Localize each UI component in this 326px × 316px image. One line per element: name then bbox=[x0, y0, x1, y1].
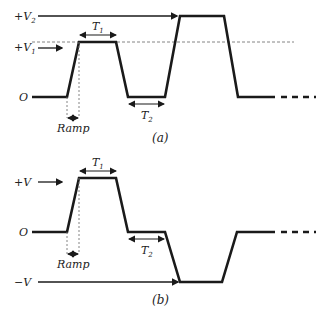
label-v1: +V1 bbox=[14, 41, 36, 56]
label-t1-b: T1 bbox=[92, 156, 104, 171]
label-neg-v: −V bbox=[14, 276, 32, 289]
caption-b: (b) bbox=[152, 293, 169, 307]
label-zero-b: O bbox=[19, 226, 28, 239]
waveform-a bbox=[32, 16, 275, 97]
label-t2-a: T2 bbox=[141, 109, 153, 124]
caption-a: (a) bbox=[152, 131, 169, 145]
label-v2: +V2 bbox=[14, 10, 36, 25]
label-zero-a: O bbox=[19, 91, 28, 104]
label-t1-a: T1 bbox=[92, 20, 104, 35]
label-ramp-a: Ramp bbox=[56, 122, 90, 135]
panel-b: +V O −V T1 T2 Ramp (b) bbox=[14, 156, 316, 307]
label-pos-v: +V bbox=[14, 176, 32, 189]
pulse-waveform-diagram: +V2 +V1 O T1 T2 Ramp (a) +V O −V T1 T2 R… bbox=[0, 0, 326, 316]
panel-a: +V2 +V1 O T1 T2 Ramp (a) bbox=[14, 10, 316, 145]
label-ramp-b: Ramp bbox=[56, 258, 90, 271]
label-t2-b: T2 bbox=[141, 244, 153, 259]
